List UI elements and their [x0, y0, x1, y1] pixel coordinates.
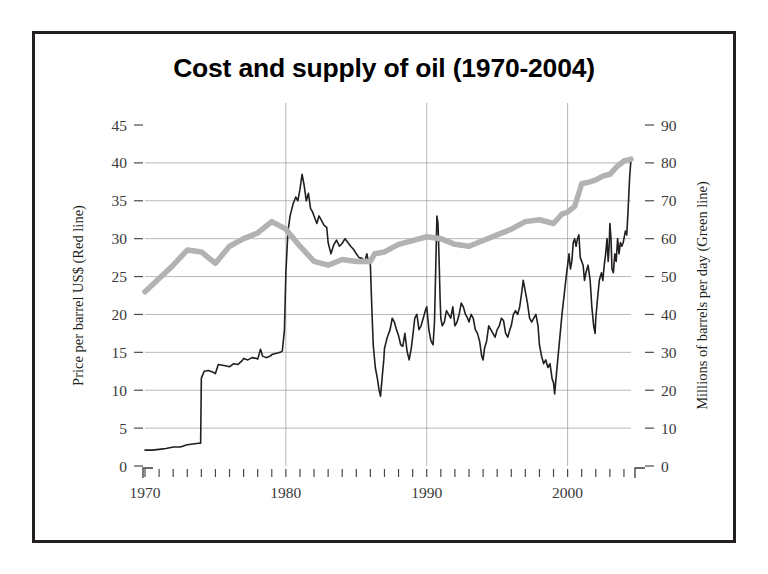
y2-axis-tick-label: 60 [661, 230, 677, 247]
y-axis-tick-label: 15 [112, 344, 128, 361]
series-line-supply [145, 159, 631, 292]
y2-axis-tick-label: 90 [661, 117, 677, 134]
y-axis-tick-label: 5 [119, 420, 127, 437]
x-axis-tick-label: 2000 [552, 484, 583, 501]
x-axis-tick-label: 1970 [130, 484, 161, 501]
axis-lines [143, 468, 645, 478]
y-axis-tick-label: 45 [112, 117, 128, 134]
y2-axis-tick-label: 20 [661, 382, 677, 399]
y-axis-tick-label: 20 [112, 306, 128, 323]
y-axis-tick-label: 0 [119, 458, 127, 475]
y-axis-tick-label: 40 [112, 154, 128, 171]
y-axis-tick-label: 30 [112, 230, 128, 247]
y2-axis-tick-label: 80 [661, 154, 677, 171]
x-axis-right-bracket [635, 468, 645, 478]
x-axis-tick-label: 1990 [411, 484, 442, 501]
y2-axis-title: Millions of barrels per day (Green line) [694, 181, 711, 410]
oil-cost-supply-line-chart: 0510152025303540450102030405060708090197… [35, 34, 739, 546]
y2-axis-tick-label: 50 [661, 268, 677, 285]
y2-axis-tick-label: 70 [661, 192, 677, 209]
y-axis-tick-label: 25 [112, 268, 128, 285]
y2-axis-tick-label: 0 [661, 458, 669, 475]
axis-titles: Price per barrel US$ (Red line)Millions … [70, 181, 711, 410]
x-axis-tick-label: 1980 [270, 484, 301, 501]
data-series [145, 159, 631, 450]
axis-tickmarks [134, 125, 654, 477]
gridlines [145, 103, 631, 466]
series-line-price [145, 159, 631, 450]
y2-axis-tick-label: 40 [661, 306, 677, 323]
y-axis-tick-label: 35 [112, 192, 128, 209]
chart-figure-frame: Cost and supply of oil (1970-2004) 05101… [32, 31, 736, 543]
y-axis-title: Price per barrel US$ (Red line) [70, 205, 87, 386]
y2-axis-tick-label: 30 [661, 344, 677, 361]
y-axis-tick-label: 10 [112, 382, 128, 399]
y2-axis-tick-label: 10 [661, 420, 677, 437]
